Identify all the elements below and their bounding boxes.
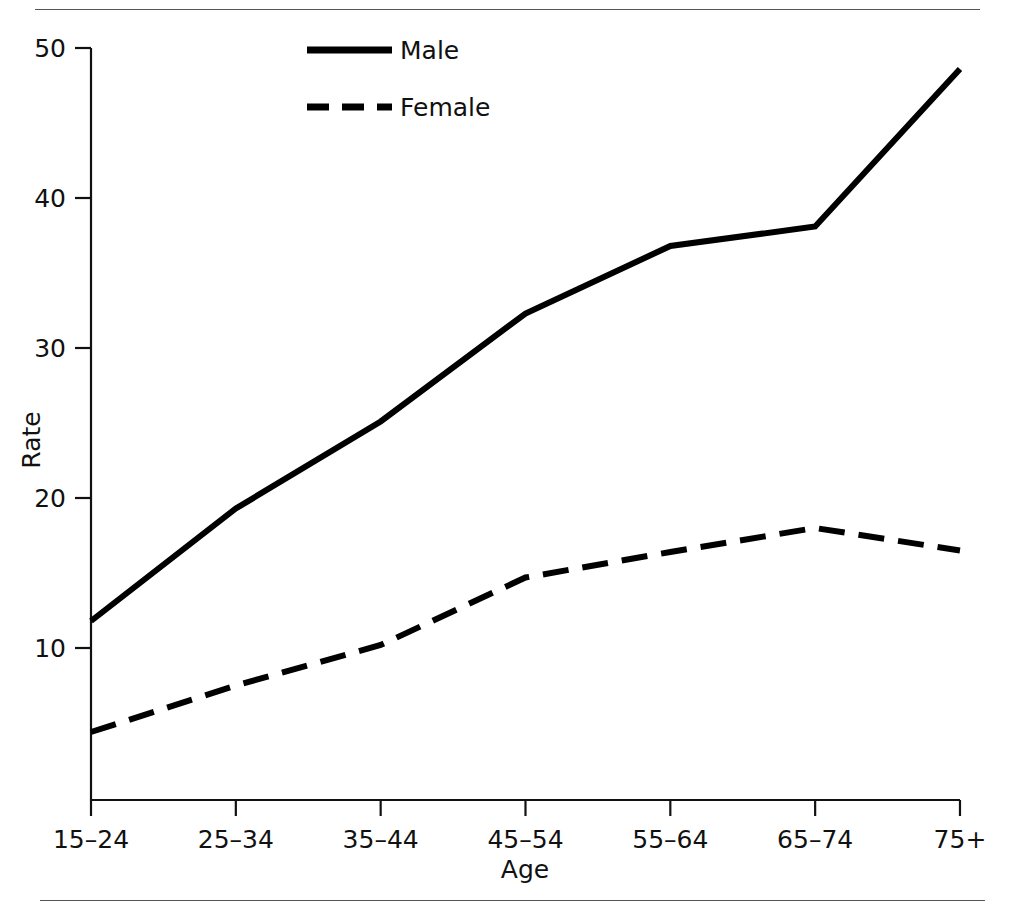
y-axis: 1020304050 Rate bbox=[17, 34, 91, 800]
series-line-female bbox=[91, 528, 960, 732]
line-chart-plot: 1020304050 Rate 15–2425–3435–4445–5455–6… bbox=[0, 0, 1010, 912]
x-axis-ticks bbox=[91, 800, 960, 816]
x-axis-tick-label: 65–74 bbox=[777, 825, 853, 854]
x-axis-tick-label: 55–64 bbox=[632, 825, 708, 854]
data-series-group bbox=[91, 69, 960, 732]
x-axis-tick-labels: 15–2425–3435–4445–5455–6465–7475+ bbox=[53, 825, 986, 854]
y-axis-tick-label: 20 bbox=[34, 484, 66, 513]
x-axis-tick-label: 15–24 bbox=[53, 825, 129, 854]
y-axis-ticks bbox=[75, 48, 91, 648]
chart-figure: 1020304050 Rate 15–2425–3435–4445–5455–6… bbox=[0, 0, 1010, 912]
legend-label-male: Male bbox=[400, 36, 459, 65]
y-axis-title: Rate bbox=[17, 411, 46, 468]
x-axis-tick-label: 75+ bbox=[934, 825, 987, 854]
y-axis-tick-label: 50 bbox=[34, 34, 66, 63]
legend-label-female: Female bbox=[400, 93, 490, 122]
x-axis-tick-label: 45–54 bbox=[487, 825, 563, 854]
x-axis: 15–2425–3435–4445–5455–6465–7475+ Age bbox=[53, 800, 986, 884]
x-axis-tick-label: 35–44 bbox=[343, 825, 419, 854]
y-axis-tick-labels: 1020304050 bbox=[34, 34, 66, 663]
y-axis-tick-label: 10 bbox=[34, 634, 66, 663]
y-axis-tick-label: 40 bbox=[34, 184, 66, 213]
x-axis-tick-label: 25–34 bbox=[198, 825, 274, 854]
x-axis-title: Age bbox=[501, 855, 549, 884]
y-axis-tick-label: 30 bbox=[34, 334, 66, 363]
chart-legend: MaleFemale bbox=[307, 36, 490, 122]
series-line-male bbox=[91, 69, 960, 621]
